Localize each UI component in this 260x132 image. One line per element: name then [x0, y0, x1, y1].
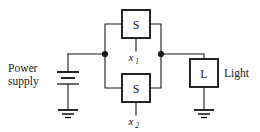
ground-symbol-lamp: [194, 110, 214, 118]
switch-top-variable: x: [128, 51, 134, 63]
battery-symbol: [57, 72, 79, 84]
lamp-box-label: L: [200, 67, 207, 81]
switch-box-top-label: S: [133, 18, 140, 32]
switch-box-bottom-label: S: [133, 82, 140, 96]
circuit-diagram: S x 1 S x 2 L Power supply Light: [0, 0, 260, 132]
wire-top-switch-to-right-node: [150, 24, 161, 54]
wire-bottom-switch-to-right-node: [150, 54, 161, 88]
power-supply-label-line1: Power: [8, 62, 38, 74]
switch-top-variable-subscript: 1: [135, 57, 139, 66]
wire-left-node-to-bottom-switch: [105, 54, 122, 88]
switch-bottom-variable: x: [128, 115, 134, 127]
junction-dot-right: [158, 51, 164, 57]
junction-dot-left: [102, 51, 108, 57]
switch-bottom-variable-subscript: 2: [135, 121, 139, 130]
light-label: Light: [224, 67, 250, 80]
wire-left-node-to-top-switch: [105, 24, 122, 54]
ground-symbol-power-supply: [58, 110, 78, 118]
power-supply-label-line2: supply: [8, 75, 39, 88]
circuit-canvas: S x 1 S x 2 L Power supply Light: [0, 0, 260, 132]
